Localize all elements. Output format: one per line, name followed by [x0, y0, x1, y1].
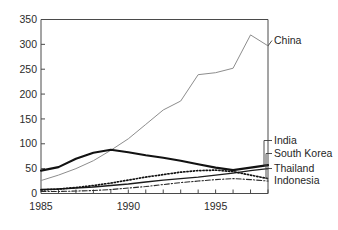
- series-line-india: [41, 150, 268, 171]
- series-label-china: China: [274, 34, 302, 46]
- series-lines: [41, 35, 268, 192]
- x-tick-label: 1985: [29, 200, 53, 212]
- y-tick-label: 100: [19, 137, 37, 149]
- series-label-thailand: Thailand: [274, 162, 314, 174]
- y-tick-label: 200: [19, 88, 37, 100]
- y-tick-label: 150: [19, 113, 37, 125]
- plot-frame: [41, 20, 268, 194]
- series-label-south-korea: South Korea: [274, 147, 333, 159]
- y-tick-label: 350: [19, 13, 37, 25]
- y-tick-label: 0: [31, 187, 37, 199]
- y-tick-label: 250: [19, 63, 37, 75]
- series-label-indonesia: Indonesia: [274, 174, 320, 186]
- x-axis-ticks: 198519901995: [29, 190, 268, 212]
- y-tick-label: 50: [25, 162, 37, 174]
- series-labels: ChinaIndiaSouth KoreaThailandIndonesia: [274, 34, 333, 186]
- y-tick-label: 300: [19, 38, 37, 50]
- chart-canvas: 050100150200250300350 198519901995 China…: [0, 0, 338, 230]
- x-tick-label: 1995: [204, 200, 228, 212]
- x-tick-label: 1990: [117, 200, 141, 212]
- series-label-india: India: [274, 134, 297, 146]
- line-chart: 050100150200250300350 198519901995 China…: [0, 0, 338, 230]
